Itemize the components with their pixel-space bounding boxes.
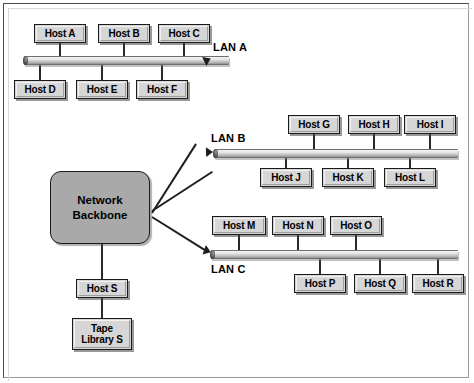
host-node-q-label: Host Q xyxy=(364,278,396,289)
host-node-k-label: Host K xyxy=(332,172,363,183)
lan-b-bus-tube xyxy=(214,149,458,158)
lan-c-bus xyxy=(211,250,458,259)
host-node-j-label: Host J xyxy=(271,172,300,183)
network-backbone-node[interactable]: Network Backbone xyxy=(50,171,150,244)
host-node-b[interactable]: Host B xyxy=(98,24,150,43)
host-node-s-label: Host S xyxy=(87,283,117,294)
host-node-k[interactable]: Host K xyxy=(322,168,374,187)
host-node-r-label: Host R xyxy=(422,278,453,289)
host-node-a[interactable]: Host A xyxy=(34,24,86,43)
host-node-b-label: Host B xyxy=(108,28,139,39)
lan-b-bus-terminator-icon xyxy=(213,149,218,158)
host-node-i-label: Host I xyxy=(417,119,444,130)
host-node-f[interactable]: Host F xyxy=(136,80,188,99)
host-node-l[interactable]: Host L xyxy=(384,168,436,187)
host-node-g[interactable]: Host G xyxy=(288,115,340,134)
host-node-r[interactable]: Host R xyxy=(412,274,464,293)
host-node-p[interactable]: Host P xyxy=(294,274,346,293)
link-host-m-to-lan-c xyxy=(238,235,240,251)
arrow-lan-b xyxy=(206,147,213,157)
host-node-s[interactable]: Host S xyxy=(76,279,128,298)
link-host-b-to-lan-a xyxy=(123,43,125,57)
host-node-p-label: Host P xyxy=(305,278,335,289)
host-node-f-label: Host F xyxy=(147,84,177,95)
tape-library-node[interactable]: Tape Library S xyxy=(72,318,132,350)
link-host-q-to-lan-c xyxy=(379,257,381,275)
network-backbone-label: Network Backbone xyxy=(73,193,128,222)
host-node-i[interactable]: Host I xyxy=(404,115,456,134)
link-host-r-to-lan-c xyxy=(437,257,439,275)
host-node-c[interactable]: Host C xyxy=(158,24,210,43)
network-diagram-canvas: Network Backbone LAN A Host A Host B Hos… xyxy=(0,0,474,383)
tape-library-label: Tape Library S xyxy=(81,323,123,345)
host-node-m-label: Host M xyxy=(223,220,255,231)
host-node-l-label: Host L xyxy=(395,172,425,183)
host-node-c-label: Host C xyxy=(168,28,199,39)
lan-c-label: LAN C xyxy=(211,263,246,275)
host-node-e-label: Host E xyxy=(87,84,117,95)
lan-a-bus-tube xyxy=(24,56,229,65)
link-host-i-to-lan-b xyxy=(429,134,431,150)
link-host-h-to-lan-b xyxy=(373,134,375,150)
lan-a-bus-terminator-icon xyxy=(23,56,28,65)
link-host-n-to-lan-c xyxy=(297,235,299,251)
link-host-a-to-lan-a xyxy=(59,43,61,57)
host-node-e[interactable]: Host E xyxy=(76,80,128,99)
host-node-a-label: Host A xyxy=(45,28,76,39)
host-node-n[interactable]: Host N xyxy=(272,216,324,235)
link-host-s-to-tape-library xyxy=(101,297,103,319)
host-node-h-label: Host H xyxy=(358,119,389,130)
host-node-d-label: Host D xyxy=(24,84,55,95)
host-node-g-label: Host G xyxy=(298,119,330,130)
link-host-p-to-lan-c xyxy=(319,257,321,275)
host-node-q[interactable]: Host Q xyxy=(354,274,406,293)
host-node-o-label: Host O xyxy=(340,220,372,231)
lan-c-bus-tube xyxy=(211,250,458,259)
link-backbone-to-host-s xyxy=(101,244,103,280)
host-node-m[interactable]: Host M xyxy=(212,216,266,235)
host-node-j[interactable]: Host J xyxy=(260,168,312,187)
host-node-d[interactable]: Host D xyxy=(14,80,66,99)
link-host-c-to-lan-a xyxy=(183,43,185,57)
link-host-o-to-lan-c xyxy=(355,235,357,251)
link-host-g-to-lan-b xyxy=(313,134,315,150)
lan-a-bus xyxy=(24,56,229,65)
lan-b-bus xyxy=(214,149,458,158)
host-node-n-label: Host N xyxy=(282,220,313,231)
host-node-h[interactable]: Host H xyxy=(348,115,400,134)
lan-a-label: LAN A xyxy=(213,41,247,53)
host-node-o[interactable]: Host O xyxy=(330,216,382,235)
lan-b-label: LAN B xyxy=(211,132,246,144)
